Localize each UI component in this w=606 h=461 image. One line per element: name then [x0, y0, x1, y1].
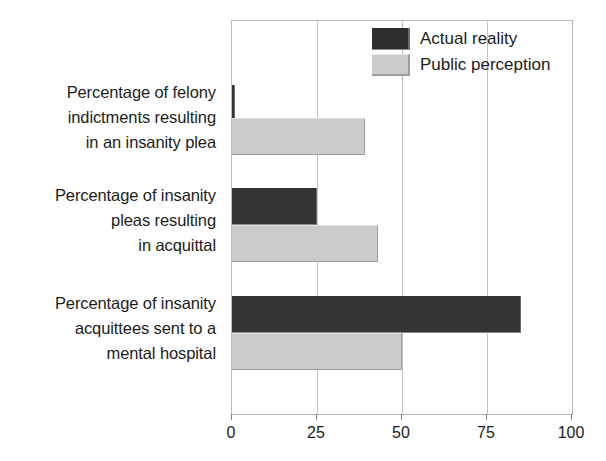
category-label-line: in an insanity plea — [4, 130, 216, 155]
legend-label-public-perception: Public perception — [420, 54, 550, 76]
chart-legend: Actual reality Public perception — [372, 26, 562, 78]
x-tick-mark-100 — [571, 414, 572, 420]
plot-area — [231, 20, 573, 415]
x-tick-mark-75 — [486, 414, 487, 420]
x-tick-mark-25 — [316, 414, 317, 420]
x-tick-label-25: 25 — [307, 423, 325, 443]
x-tick-label-0: 0 — [227, 423, 236, 443]
bar-actual-reality-mental-hospital — [232, 296, 521, 333]
x-tick-label-75: 75 — [477, 423, 495, 443]
bar-actual-reality-felony-indictments — [232, 85, 235, 122]
category-label-line: indictments resulting — [4, 105, 216, 130]
category-label-line: in acquittal — [4, 233, 216, 258]
x-tick-label-100: 100 — [558, 423, 585, 443]
category-label-line: acquittees sent to a — [4, 316, 216, 341]
bar-public-perception-felony-indictments — [232, 118, 365, 155]
bar-public-perception-insanity-pleas — [232, 225, 378, 262]
x-tick-mark-0 — [231, 414, 232, 420]
legend-entry-public-perception: Public perception — [372, 52, 562, 78]
category-label-line: mental hospital — [4, 341, 216, 366]
x-tick-mark-50 — [401, 414, 402, 420]
bar-chart-figure: Percentage of felony indictments resulti… — [0, 0, 606, 461]
gridline-75 — [487, 21, 488, 414]
legend-swatch-icon-actual-reality — [372, 28, 410, 50]
bar-public-perception-mental-hospital — [232, 333, 402, 370]
category-label-line: pleas resulting — [4, 208, 216, 233]
x-axis: 0 25 50 75 100 — [231, 414, 571, 454]
legend-label-actual-reality: Actual reality — [420, 28, 517, 50]
category-label-felony-indictments: Percentage of felony indictments resulti… — [4, 80, 216, 155]
category-label-mental-hospital: Percentage of insanity acquittees sent t… — [4, 291, 216, 366]
category-label-line: Percentage of felony — [4, 80, 216, 105]
legend-swatch-icon-public-perception — [372, 54, 410, 76]
category-axis-labels: Percentage of felony indictments resulti… — [0, 0, 224, 461]
legend-entry-actual-reality: Actual reality — [372, 26, 562, 52]
category-label-line: Percentage of insanity — [4, 291, 216, 316]
category-label-line: Percentage of insanity — [4, 183, 216, 208]
category-label-insanity-pleas: Percentage of insanity pleas resulting i… — [4, 183, 216, 258]
bar-actual-reality-insanity-pleas — [232, 188, 317, 225]
x-tick-label-50: 50 — [392, 423, 410, 443]
gridline-50 — [402, 21, 403, 414]
